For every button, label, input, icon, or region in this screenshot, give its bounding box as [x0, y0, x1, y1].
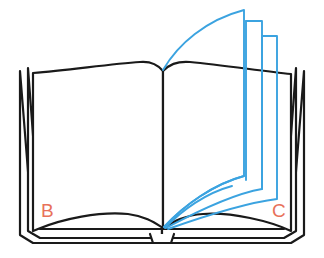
- spine-notch: [150, 234, 174, 243]
- right-page-label: C: [272, 200, 286, 221]
- left-page-label: B: [41, 200, 54, 221]
- book-diagram-svg: B C: [0, 0, 324, 258]
- book-illustration: B C: [0, 0, 324, 258]
